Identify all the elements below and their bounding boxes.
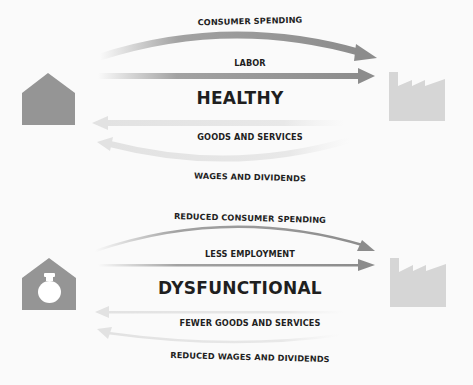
dysfunctional-title: DYSFUNCTIONAL xyxy=(150,278,330,298)
arrowhead xyxy=(354,44,377,61)
labor-arrow xyxy=(98,73,360,79)
fewer-goods-arrow xyxy=(104,311,344,314)
arrowhead xyxy=(97,327,112,339)
healthy-title: HEALTHY xyxy=(180,88,300,108)
labor-label: LABOR xyxy=(210,58,290,68)
arrowhead xyxy=(92,116,108,130)
goods-services-label: GOODS AND SERVICES xyxy=(175,132,325,142)
reduced-consumer-spending-arrow xyxy=(95,227,366,251)
consumer-spending-arrow xyxy=(100,35,362,57)
reduced-wages-arrow xyxy=(108,333,340,342)
arrowhead xyxy=(95,306,109,318)
less-employment-label: LESS EMPLOYMENT xyxy=(175,249,325,259)
circular-flow-diagram: CONSUMER SPENDING LABOR HEALTHY GOODS AN… xyxy=(0,0,473,385)
fewer-goods-label: FEWER GOODS AND SERVICES xyxy=(150,318,350,328)
arrowhead xyxy=(97,137,113,151)
factory-icon xyxy=(390,258,446,307)
arrowhead xyxy=(358,259,375,271)
goods-services-arrow xyxy=(104,120,344,126)
factory-icon xyxy=(389,72,445,121)
arrowhead xyxy=(358,68,375,84)
house-icon xyxy=(22,73,75,125)
less-employment-arrow xyxy=(98,264,360,267)
arrowhead xyxy=(357,240,375,251)
wages-dividends-arrow xyxy=(110,140,350,159)
